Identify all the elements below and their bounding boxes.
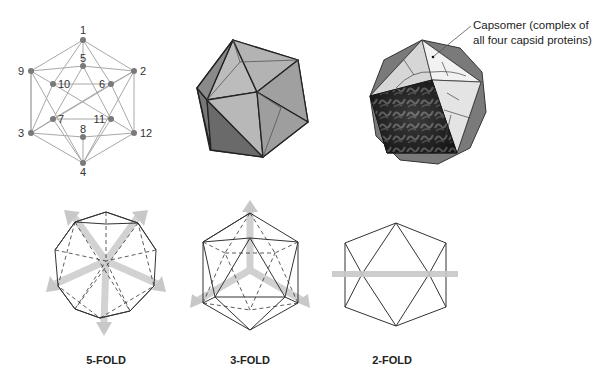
vertex-point	[50, 81, 56, 87]
two-fold-axis-diagram	[332, 223, 458, 326]
icosahedron-figure: 123456789101112	[0, 0, 611, 380]
vertex-label: 10	[58, 78, 70, 90]
vertex-label: 7	[58, 113, 64, 125]
vertex-label: 12	[140, 127, 152, 139]
two-fold-label: 2-FOLD	[372, 354, 412, 366]
vertex-point	[131, 130, 137, 136]
vertex-label: 4	[80, 166, 86, 178]
vertex-label: 11	[94, 113, 105, 125]
vertex-label: 3	[18, 127, 24, 139]
shaded-icosahedron	[197, 40, 308, 157]
capsomer-label-line2: all four capsid proteins)	[473, 34, 592, 46]
vertex-point	[50, 116, 56, 122]
three-fold-label: 3-FOLD	[230, 354, 270, 366]
vertex-point	[28, 68, 34, 74]
vertex-label: 5	[80, 52, 86, 64]
vertex-point	[108, 81, 114, 87]
vertex-label: 2	[140, 65, 146, 77]
capsomer-label-line1: Capsomer (complex of	[473, 19, 589, 31]
capsomer-diagram	[370, 26, 486, 164]
vertex-point	[28, 130, 34, 136]
vertex-point	[131, 68, 137, 74]
vertex-label: 6	[99, 78, 105, 90]
five-fold-label: 5-FOLD	[86, 354, 126, 366]
five-fold-axis-diagram	[46, 210, 166, 336]
vertex-label: 8	[80, 123, 86, 135]
three-fold-axis-diagram	[190, 200, 310, 330]
vertex-point	[108, 116, 114, 122]
vertex-label: 1	[80, 24, 86, 36]
vertex-point	[80, 37, 86, 43]
vertex-label: 9	[18, 65, 24, 77]
